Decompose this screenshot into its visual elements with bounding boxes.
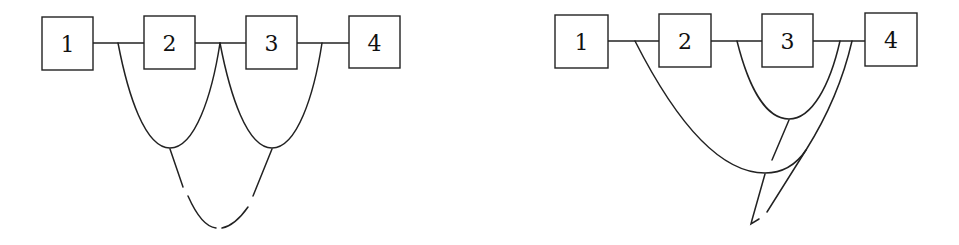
inner-stem [772,120,789,160]
bottom-arc-right [222,207,248,228]
left-node-2: 2 [144,16,195,69]
right-node-3: 3 [762,14,813,67]
right-node-1: 1 [555,15,608,68]
node-label: 3 [781,29,795,54]
right-diagram: 1 2 3 4 [555,13,917,224]
node-label: 1 [61,32,75,57]
node-label: 2 [163,31,177,56]
right-node-2: 2 [659,14,711,67]
bottom-arc-left [188,196,216,228]
node-label: 4 [368,31,382,56]
right-stem [253,149,272,196]
left-node-3: 3 [246,16,297,69]
left-diagram: 1 2 3 4 [42,16,400,228]
left-stem [170,149,183,187]
bottom-stem [751,174,765,224]
right-node-4: 4 [865,13,917,66]
left-node-4: 4 [349,16,400,68]
node-label: 4 [884,28,898,53]
diagram-canvas: 1 2 3 4 1 2 [0,0,959,245]
node-label: 3 [265,31,279,56]
node-label: 2 [678,29,692,54]
node-label: 1 [575,30,589,55]
left-node-1: 1 [42,17,93,70]
